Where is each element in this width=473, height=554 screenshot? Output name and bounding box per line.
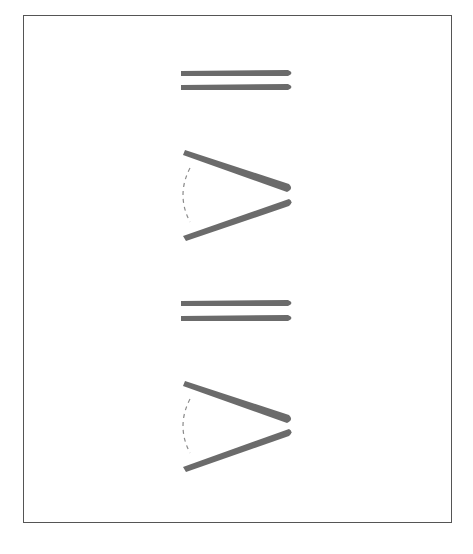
parallel-lines-2 (181, 300, 292, 321)
angle-arc-1 (183, 168, 190, 222)
angle-arc-2 (183, 399, 190, 453)
angle-1 (183, 150, 292, 241)
diagram-canvas (0, 0, 473, 554)
parallel-lines-1 (181, 70, 292, 90)
angle-2 (183, 381, 292, 472)
